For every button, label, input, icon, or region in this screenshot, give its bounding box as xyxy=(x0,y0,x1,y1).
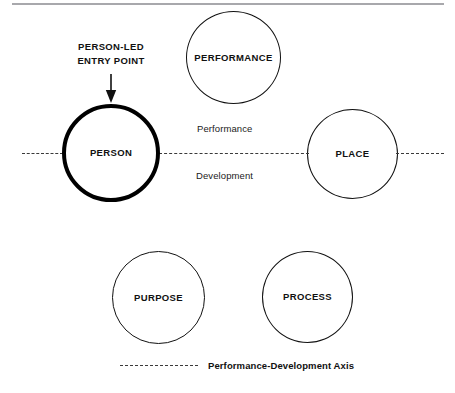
axis-line-segment-left xyxy=(22,153,63,154)
top-divider-rule xyxy=(12,3,444,5)
entry-point-annotation: PERSON-LED ENTRY POINT xyxy=(40,40,182,67)
axis-line-segment-right xyxy=(396,153,444,154)
axis-pole-label-performance: Performance xyxy=(197,123,252,134)
node-performance-label: PERFORMANCE xyxy=(194,53,272,63)
node-process[interactable]: PROCESS xyxy=(262,251,353,343)
down-arrow-icon xyxy=(104,74,118,104)
entry-point-annotation-line-1: PERSON-LED xyxy=(40,40,182,54)
axis-pole-label-development: Development xyxy=(196,170,253,181)
node-person-label: PERSON xyxy=(90,148,132,158)
axis-line-segment-middle xyxy=(159,153,309,154)
legend-label: Performance-Development Axis xyxy=(208,360,354,371)
node-person[interactable]: PERSON xyxy=(62,104,160,202)
node-place[interactable]: PLACE xyxy=(307,109,398,199)
legend-dashed-swatch xyxy=(120,365,198,366)
node-process-label: PROCESS xyxy=(283,292,332,302)
node-performance[interactable]: PERFORMANCE xyxy=(186,11,281,104)
node-purpose-label: PURPOSE xyxy=(134,293,183,303)
diagram-canvas: Performance Development PERSON PERFORMAN… xyxy=(0,0,455,393)
entry-point-annotation-line-2: ENTRY POINT xyxy=(40,54,182,68)
legend: Performance-Development Axis xyxy=(120,360,354,371)
node-purpose[interactable]: PURPOSE xyxy=(112,251,205,344)
node-place-label: PLACE xyxy=(336,149,370,159)
